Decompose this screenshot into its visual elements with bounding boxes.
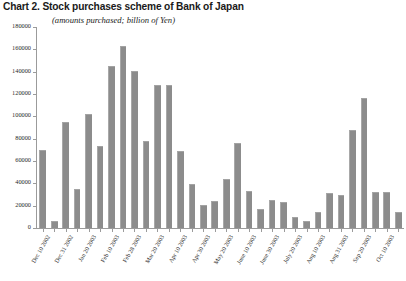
y-tick-mark [33,116,36,117]
x-tick-mark [192,229,193,232]
y-tick-mark [33,27,36,28]
y-tick-label: 100000 [12,111,31,118]
bar [372,192,379,228]
y-tick-label: 180000 [12,22,31,29]
x-tick-label: June 30 2003 [259,234,280,265]
x-tick-mark [341,229,342,232]
x-tick-mark [249,229,250,232]
x-tick-mark [261,229,262,232]
y-tick-label: 160000 [12,44,31,51]
x-tick-mark [295,229,296,232]
bar [154,85,161,228]
x-tick-mark [134,229,135,232]
x-tick-label: June 10 2003 [236,234,257,265]
y-tick-label: 20000 [15,201,31,208]
bar [97,146,104,228]
x-tick-mark [387,229,388,232]
bar [39,150,46,228]
y-tick-label: 0 [28,223,31,230]
bar [303,221,310,228]
y-tick-mark [33,183,36,184]
x-tick-label: Feb 10 2003 [99,234,119,263]
bar [85,114,92,228]
x-tick-label: Mar 20 2003 [145,234,166,264]
bar [269,200,276,228]
y-tick-label: 140000 [12,67,31,74]
x-tick-mark [146,229,147,232]
x-tick-label: May 20 2003 [213,234,234,265]
x-tick-label: Apr 30 2003 [191,234,212,264]
bar [326,193,333,228]
x-tick-mark [364,229,365,232]
bar [189,184,196,228]
bar [349,130,356,228]
bar [395,212,402,228]
x-tick-mark [375,229,376,232]
bar [131,71,138,228]
y-tick-label: 60000 [15,156,31,163]
bar [200,205,207,228]
x-tick-mark [66,229,67,232]
bar [74,189,81,228]
x-tick-label: Apr 10 2003 [168,234,189,264]
x-tick-mark [272,229,273,232]
bar [143,141,150,228]
x-tick-mark [238,229,239,232]
chart-subtitle: (amounts purchased; billion of Yen) [52,15,175,25]
y-tick-mark [33,49,36,50]
x-tick-mark [307,229,308,232]
bar [234,143,241,228]
x-tick-label: Jan 20 2003 [77,234,97,263]
bar [257,209,264,228]
x-tick-mark [89,229,90,232]
x-tick-label: Aug 31 2003 [328,234,349,265]
x-tick-mark [215,229,216,232]
y-tick-mark [33,206,36,207]
bar-series [37,27,404,228]
y-tick-label: 40000 [15,178,31,185]
bar [292,217,299,228]
bar [315,212,322,228]
x-tick-mark [180,229,181,232]
y-tick-mark [33,139,36,140]
bar [383,192,390,228]
bar [62,122,69,228]
x-tick-label: Feb 28 2003 [122,234,142,263]
x-tick-mark [169,229,170,232]
x-tick-mark [226,229,227,232]
x-tick-mark [284,229,285,232]
bar [108,66,115,228]
bar [361,98,368,228]
y-tick-label: 120000 [12,89,31,96]
bar [120,46,127,228]
bar [246,191,253,228]
x-tick-label: July 20 2003 [282,234,303,264]
x-tick-mark [203,229,204,232]
x-tick-mark [329,229,330,232]
bar [280,202,287,228]
x-tick-mark [157,229,158,232]
bar [166,85,173,228]
x-tick-mark [112,229,113,232]
bar [223,179,230,228]
y-tick-label: 80000 [15,134,31,141]
x-tick-label: Oct 10 2003 [375,234,395,263]
y-tick-mark [33,228,36,229]
y-tick-mark [33,72,36,73]
x-tick-mark [100,229,101,232]
x-tick-label: Dec 31 2002 [53,234,74,264]
x-tick-mark [398,229,399,232]
x-tick-label: Aug 10 2003 [305,234,326,265]
x-tick-label: Dec 10 2002 [30,234,51,264]
x-tick-label: Sep 20 2003 [352,234,372,263]
x-tick-mark [318,229,319,232]
x-tick-mark [352,229,353,232]
x-tick-mark [54,229,55,232]
y-tick-mark [33,161,36,162]
bar [338,195,345,229]
x-tick-mark [43,229,44,232]
x-axis: Dec 10 2002Dec 31 2002Jan 20 2003Feb 10 … [37,229,404,281]
bar [211,201,218,228]
chart-figure: Chart 2. Stock purchases scheme of Bank … [0,0,406,281]
bar [51,221,58,228]
